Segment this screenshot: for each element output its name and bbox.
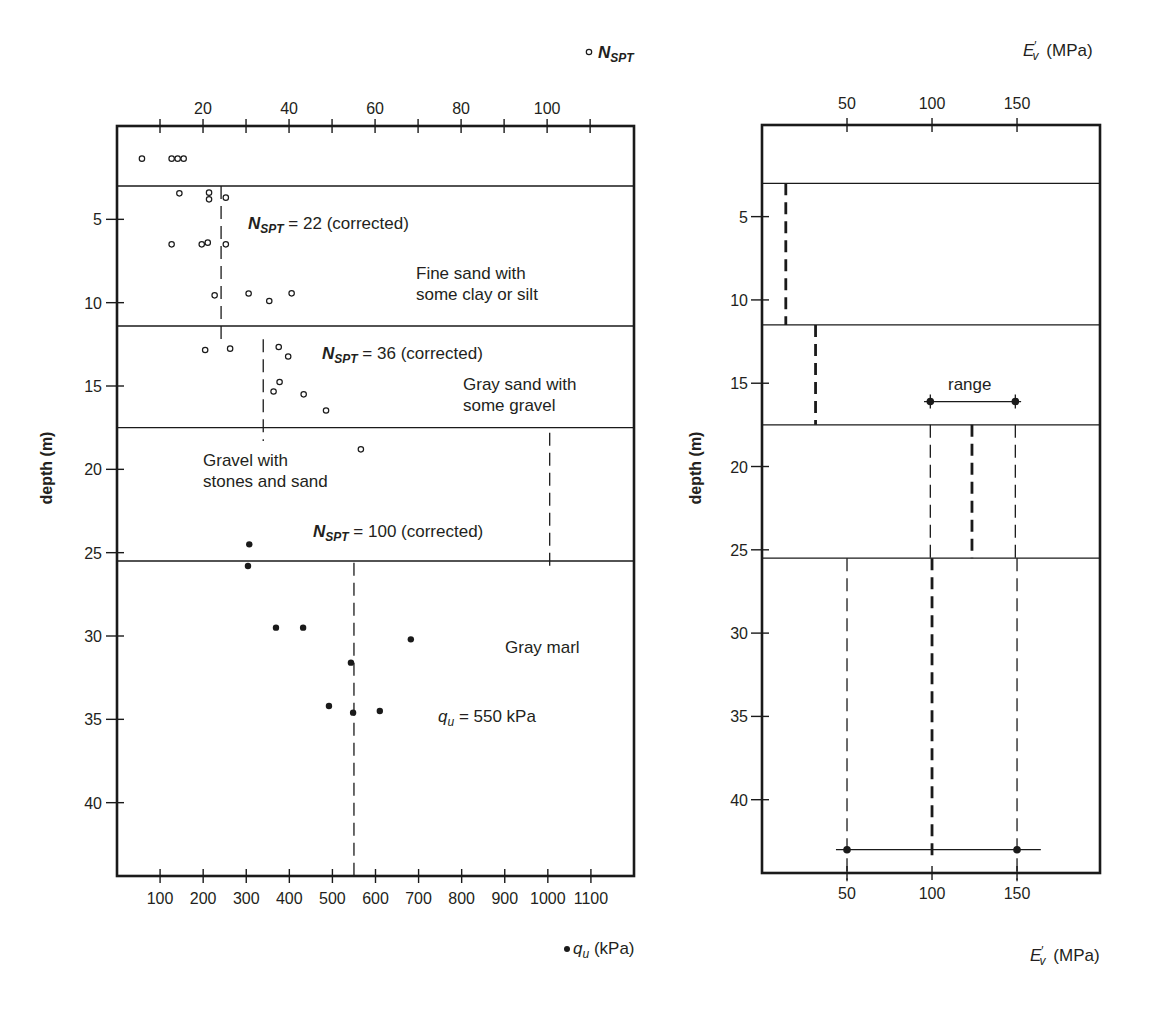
y-axis-tick-label: 20	[84, 461, 102, 478]
x_bottom-tick-label: 50	[838, 885, 856, 902]
layer-description-gray-sand-2: some gravel	[463, 396, 556, 415]
x_top-tick-label: 50	[838, 95, 856, 112]
legend-qu: qu (kPa)	[564, 939, 635, 961]
x_bottom-tick-label: 100	[147, 890, 174, 907]
data-point-nspt	[223, 195, 228, 200]
data-point-qu	[348, 659, 354, 665]
data-point-nspt	[206, 190, 211, 195]
y-axis-tick-label: 5	[93, 211, 102, 228]
data-point-nspt	[175, 156, 180, 161]
y-axis-tick-label: 10	[84, 295, 102, 312]
layer-description-fine-sand-1: Fine sand with	[416, 264, 526, 283]
data-point-nspt	[223, 242, 228, 247]
data-point-nspt	[169, 242, 174, 247]
y-axis-tick-label: 35	[730, 708, 748, 725]
x_top-tick-label: 60	[366, 100, 384, 117]
data-point-nspt	[323, 408, 328, 413]
x_bottom-tick-label: 500	[319, 890, 346, 907]
legend-nspt-label: NSPT	[598, 43, 635, 65]
filled-circle-marker-icon	[564, 946, 570, 952]
data-point-nspt	[212, 293, 217, 298]
data-point-nspt	[206, 197, 211, 202]
data-point-nspt	[181, 156, 186, 161]
legend-qu-label: qu (kPa)	[573, 939, 635, 961]
x_bottom-tick-label: 1100	[574, 890, 609, 907]
range-bar-end-point	[1013, 846, 1021, 854]
y-axis-tick-label: 15	[730, 375, 748, 392]
x_top-tick-label: 100	[919, 95, 946, 112]
annotation-qu-550: qu = 550 kPa	[438, 707, 536, 729]
range-label: range	[948, 375, 991, 394]
data-point-nspt	[358, 447, 363, 452]
right-y-axis-title: depth (m)	[687, 432, 704, 505]
x_bottom-tick-label: 400	[276, 890, 303, 907]
y-axis-tick-label: 5	[739, 209, 748, 226]
soil-profile-figure: 5101520253035402040608010010020030040050…	[0, 0, 1160, 1017]
right-bottom-axis-title: E′v (MPa)	[1030, 944, 1100, 968]
x_top-tick-label: 150	[1004, 95, 1031, 112]
right-top-axis-title: E′v (MPa)	[1023, 39, 1093, 63]
x_bottom-tick-label: 800	[448, 890, 475, 907]
data-point-qu	[300, 624, 306, 630]
data-point-nspt	[271, 389, 276, 394]
x_bottom-tick-label: 700	[405, 890, 432, 907]
y-axis-tick-label: 40	[730, 792, 748, 809]
data-point-qu	[377, 708, 383, 714]
left-y-axis-title: depth (m)	[38, 432, 55, 505]
data-point-nspt	[267, 298, 272, 303]
x_top-tick-label: 80	[452, 100, 470, 117]
y-axis-tick-label: 10	[730, 292, 748, 309]
data-point-nspt	[285, 354, 290, 359]
x_top-tick-label: 100	[534, 100, 561, 117]
data-point-nspt	[277, 379, 282, 384]
data-point-nspt	[289, 291, 294, 296]
y-axis-tick-label: 25	[730, 542, 748, 559]
plot-frame	[762, 125, 1100, 873]
layer-description-gravel-1: Gravel with	[203, 451, 288, 470]
layer-description-gray-marl: Gray marl	[505, 638, 580, 657]
annotation-nspt-22: NSPT = 22 (corrected)	[248, 214, 409, 236]
data-point-qu	[273, 624, 279, 630]
data-point-qu	[326, 703, 332, 709]
data-point-nspt	[276, 344, 281, 349]
layer-description-fine-sand-2: some clay or silt	[416, 285, 538, 304]
data-point-nspt	[227, 346, 232, 351]
x_bottom-tick-label: 1000	[530, 890, 566, 907]
x_bottom-tick-label: 100	[919, 885, 946, 902]
x_bottom-tick-label: 900	[491, 890, 518, 907]
range-bar-end-point	[843, 846, 851, 854]
x_bottom-tick-label: 300	[233, 890, 260, 907]
annotation-nspt-100: NSPT = 100 (corrected)	[313, 522, 483, 544]
data-point-qu	[350, 709, 356, 715]
x_bottom-tick-label: 150	[1004, 885, 1031, 902]
data-point-qu	[245, 563, 251, 569]
data-point-qu	[408, 636, 414, 642]
data-point-nspt	[202, 347, 207, 352]
x_bottom-tick-label: 200	[190, 890, 217, 907]
data-point-nspt	[177, 191, 182, 196]
x_top-tick-label: 40	[280, 100, 298, 117]
data-point-nspt	[169, 156, 174, 161]
range-bar-end-point	[927, 398, 935, 406]
range-bar-end-point	[1012, 398, 1020, 406]
data-point-nspt	[301, 392, 306, 397]
data-point-nspt	[199, 242, 204, 247]
y-axis-tick-label: 35	[84, 711, 102, 728]
data-point-nspt	[205, 240, 210, 245]
data-point-qu	[246, 541, 252, 547]
layer-description-gray-sand-1: Gray sand with	[463, 375, 576, 394]
data-point-nspt	[246, 291, 251, 296]
y-axis-tick-label: 40	[84, 795, 102, 812]
right-chart-plot-elements: 5101520253035405010015050100150	[730, 95, 1100, 902]
left-chart-nspt-qu: 5101520253035402040608010010020030040050…	[38, 43, 635, 961]
x_top-tick-label: 20	[194, 100, 212, 117]
legend-nspt: NSPT	[586, 43, 635, 65]
right-chart-ev: 5101520253035405010015050100150 E′v (MPa…	[687, 39, 1100, 968]
data-point-nspt	[139, 156, 144, 161]
x_bottom-tick-label: 600	[362, 890, 389, 907]
layer-description-gravel-2: stones and sand	[203, 472, 328, 491]
y-axis-tick-label: 30	[84, 628, 102, 645]
y-axis-tick-label: 30	[730, 625, 748, 642]
y-axis-tick-label: 25	[84, 545, 102, 562]
annotation-nspt-36: NSPT = 36 (corrected)	[322, 344, 483, 366]
